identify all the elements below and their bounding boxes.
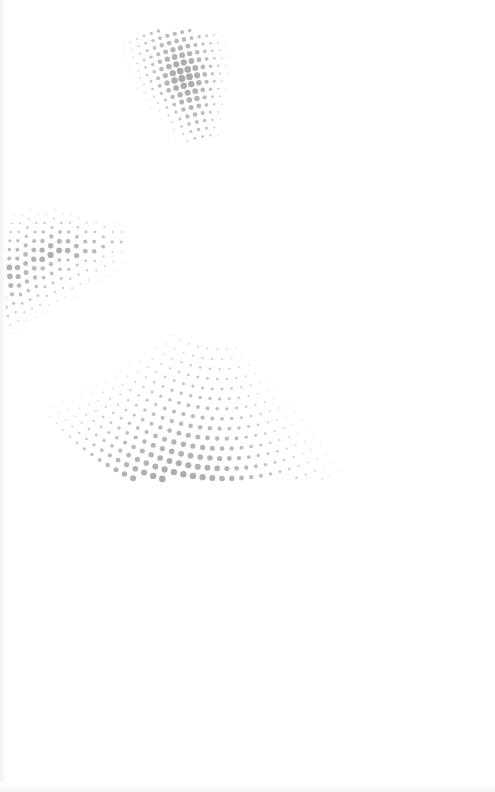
- bottom-edge-shade: [0, 782, 495, 792]
- left-edge-shade: [0, 0, 6, 792]
- artwork-canvas: [0, 0, 495, 792]
- halftone-spiral-graphic: [0, 0, 495, 792]
